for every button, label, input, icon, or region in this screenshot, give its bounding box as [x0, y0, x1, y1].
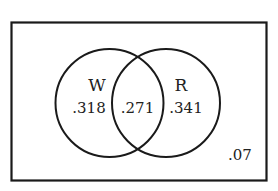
- set-w-label: W: [88, 75, 106, 95]
- outside-value: .07: [228, 146, 252, 164]
- set-r-label: R: [175, 75, 189, 95]
- set-r-only-value: .341: [169, 99, 202, 117]
- set-w-only-value: .318: [72, 99, 105, 117]
- venn-diagram: W .318 .271 R .341 .07: [0, 0, 278, 191]
- intersection-value: .271: [121, 99, 154, 117]
